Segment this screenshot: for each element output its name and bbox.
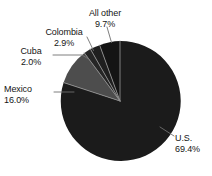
- pie-label-cuba-name: Cuba: [10, 46, 52, 57]
- pie-label-colombia: Colombia 2.9%: [34, 27, 94, 48]
- pie-label-us: U.S. 69.4%: [175, 133, 211, 154]
- pie-label-cuba: Cuba 2.0%: [10, 46, 52, 67]
- pie-label-mexico-value: 16.0%: [4, 95, 52, 106]
- pie-label-colombia-name: Colombia: [34, 27, 94, 38]
- pie-label-us-value: 69.4%: [175, 144, 211, 155]
- pie-label-all-other-name: All other: [74, 8, 136, 19]
- pie-label-mexico: Mexico 16.0%: [4, 84, 52, 105]
- leader-line-all-other: [107, 27, 112, 43]
- pie-label-all-other: All other 9.7%: [74, 8, 136, 29]
- pie-label-mexico-name: Mexico: [4, 84, 52, 95]
- pie-label-us-name: U.S.: [175, 133, 211, 144]
- pie-chart: All other 9.7% Colombia 2.9% Cuba 2.0% M…: [0, 0, 212, 176]
- pie-label-cuba-value: 2.0%: [10, 57, 52, 68]
